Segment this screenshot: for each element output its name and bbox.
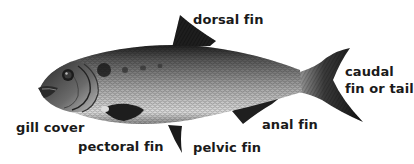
label-anal-fin: anal fin [262, 117, 318, 133]
label-gill-cover: gill cover [16, 120, 85, 136]
pelvic-fin [168, 125, 182, 153]
label-pectoral-fin: pectoral fin [78, 139, 164, 155]
label-pelvic-fin: pelvic fin [193, 140, 261, 156]
label-caudal-fin-line2: fin or tail [345, 81, 414, 97]
label-dorsal-fin: dorsal fin [193, 12, 264, 28]
eye [62, 69, 74, 81]
label-caudal-fin: caudal [345, 64, 394, 80]
